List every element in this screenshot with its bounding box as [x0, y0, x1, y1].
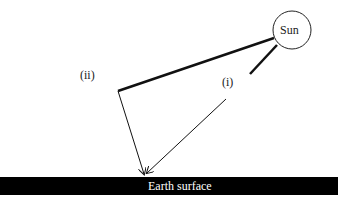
path-i-incoming — [250, 45, 277, 74]
path-ii-scattered-arrow — [118, 91, 144, 174]
path-i-label: (i) — [222, 75, 233, 90]
path-ii-label: (ii) — [80, 68, 95, 83]
sun-label: Sun — [280, 23, 299, 38]
solar-radiation-diagram: Sun (ii) (i) Earth surface — [0, 0, 338, 201]
earth-surface-label: Earth surface — [148, 179, 212, 194]
path-i-direct-arrow — [147, 99, 226, 173]
path-ii-incoming — [118, 38, 274, 91]
